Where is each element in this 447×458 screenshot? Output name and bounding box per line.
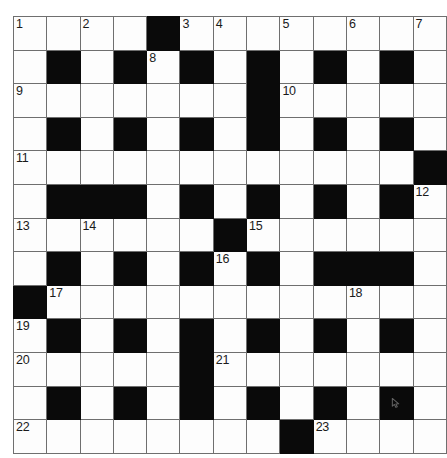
crossword-cell[interactable] — [380, 84, 413, 118]
crossword-cell[interactable] — [213, 386, 246, 420]
crossword-cell[interactable] — [247, 151, 280, 185]
crossword-cell[interactable] — [47, 17, 80, 51]
crossword-cell[interactable] — [280, 50, 313, 84]
crossword-cell[interactable] — [413, 352, 446, 386]
crossword-cell[interactable]: 21 — [213, 352, 246, 386]
crossword-cell[interactable] — [80, 420, 113, 454]
crossword-cell[interactable] — [213, 285, 246, 319]
crossword-cell[interactable] — [313, 352, 346, 386]
crossword-cell[interactable] — [213, 84, 246, 118]
crossword-cell[interactable] — [346, 151, 379, 185]
crossword-cell[interactable] — [280, 184, 313, 218]
crossword-cell[interactable] — [80, 151, 113, 185]
crossword-cell[interactable] — [280, 151, 313, 185]
crossword-cell[interactable] — [413, 285, 446, 319]
crossword-cell[interactable] — [47, 151, 80, 185]
crossword-cell[interactable]: 14 — [80, 218, 113, 252]
crossword-cell[interactable] — [313, 151, 346, 185]
crossword-cell[interactable] — [247, 352, 280, 386]
crossword-cell[interactable] — [14, 252, 47, 286]
crossword-cell[interactable] — [380, 352, 413, 386]
crossword-cell[interactable] — [413, 386, 446, 420]
crossword-cell[interactable] — [280, 252, 313, 286]
crossword-cell[interactable]: 17 — [47, 285, 80, 319]
crossword-cell[interactable]: 16 — [213, 252, 246, 286]
crossword-cell[interactable] — [14, 184, 47, 218]
crossword-cell[interactable] — [280, 386, 313, 420]
crossword-cell[interactable] — [346, 184, 379, 218]
crossword-cell[interactable]: 9 — [14, 84, 47, 118]
crossword-cell[interactable] — [80, 319, 113, 353]
crossword-cell[interactable] — [113, 285, 146, 319]
crossword-cell[interactable]: 18 — [346, 285, 379, 319]
crossword-cell[interactable]: 12 — [413, 184, 446, 218]
crossword-cell[interactable] — [213, 420, 246, 454]
crossword-cell[interactable] — [413, 50, 446, 84]
crossword-cell[interactable] — [14, 50, 47, 84]
crossword-cell[interactable] — [247, 420, 280, 454]
crossword-cell[interactable] — [413, 84, 446, 118]
crossword-cell[interactable]: 13 — [14, 218, 47, 252]
crossword-cell[interactable] — [346, 319, 379, 353]
crossword-cell[interactable] — [147, 386, 180, 420]
crossword-cell[interactable]: 4 — [213, 17, 246, 51]
crossword-cell[interactable] — [213, 50, 246, 84]
crossword-cell[interactable] — [180, 151, 213, 185]
crossword-cell[interactable] — [80, 50, 113, 84]
crossword-cell[interactable] — [413, 218, 446, 252]
crossword-cell[interactable]: 19 — [14, 319, 47, 353]
crossword-cell[interactable]: 7 — [413, 17, 446, 51]
crossword-cell[interactable] — [180, 84, 213, 118]
crossword-cell[interactable]: 11 — [14, 151, 47, 185]
crossword-cell[interactable] — [346, 50, 379, 84]
crossword-cell[interactable] — [213, 151, 246, 185]
crossword-cell[interactable] — [80, 386, 113, 420]
crossword-cell[interactable] — [346, 386, 379, 420]
crossword-cell[interactable]: 20 — [14, 352, 47, 386]
crossword-cell[interactable] — [380, 17, 413, 51]
crossword-cell[interactable] — [247, 17, 280, 51]
crossword-cell[interactable]: 6 — [346, 17, 379, 51]
crossword-cell[interactable]: 10 — [280, 84, 313, 118]
crossword-cell[interactable] — [346, 352, 379, 386]
crossword-cell[interactable] — [413, 420, 446, 454]
crossword-cell[interactable] — [413, 252, 446, 286]
crossword-cell[interactable] — [346, 117, 379, 151]
crossword-cell[interactable] — [147, 420, 180, 454]
crossword-cell[interactable] — [14, 386, 47, 420]
crossword-cell[interactable] — [80, 84, 113, 118]
crossword-cell[interactable] — [80, 252, 113, 286]
crossword-cell[interactable] — [113, 218, 146, 252]
crossword-cell[interactable] — [247, 285, 280, 319]
crossword-cell[interactable] — [47, 84, 80, 118]
crossword-cell[interactable] — [346, 84, 379, 118]
crossword-cell[interactable] — [113, 352, 146, 386]
crossword-cell[interactable] — [47, 218, 80, 252]
crossword-cell[interactable]: 23 — [313, 420, 346, 454]
crossword-cell[interactable] — [80, 352, 113, 386]
crossword-cell[interactable] — [147, 117, 180, 151]
crossword-cell[interactable] — [147, 151, 180, 185]
crossword-cell[interactable] — [113, 84, 146, 118]
crossword-cell[interactable] — [147, 84, 180, 118]
crossword-cell[interactable] — [280, 117, 313, 151]
crossword-cell[interactable] — [380, 218, 413, 252]
crossword-cell[interactable] — [313, 218, 346, 252]
crossword-cell[interactable] — [113, 17, 146, 51]
crossword-cell[interactable] — [147, 352, 180, 386]
crossword-cell[interactable] — [147, 184, 180, 218]
crossword-cell[interactable] — [180, 218, 213, 252]
crossword-cell[interactable] — [380, 420, 413, 454]
crossword-cell[interactable]: 8 — [147, 50, 180, 84]
crossword-cell[interactable] — [380, 285, 413, 319]
crossword-cell[interactable] — [147, 218, 180, 252]
crossword-grid[interactable]: 1234567891011121314151617181920212223 — [13, 16, 447, 454]
crossword-cell[interactable] — [380, 151, 413, 185]
crossword-cell[interactable] — [14, 117, 47, 151]
crossword-cell[interactable] — [213, 117, 246, 151]
crossword-cell[interactable] — [113, 151, 146, 185]
crossword-cell[interactable] — [346, 420, 379, 454]
crossword-cell[interactable] — [413, 319, 446, 353]
crossword-cell[interactable]: 2 — [80, 17, 113, 51]
crossword-cell[interactable] — [280, 352, 313, 386]
